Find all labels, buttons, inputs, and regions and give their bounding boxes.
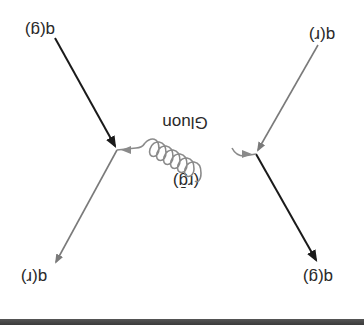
label-top-left: q(g) xyxy=(25,21,55,40)
feynman-diagram: q(g) q(r) q(r) q(g) Gluon (rḡ) xyxy=(0,0,364,325)
gluon-propagator xyxy=(117,139,256,182)
quark-line-bottom-right xyxy=(256,154,316,260)
label-gluon-name: Gluon xyxy=(162,113,207,132)
bottom-border xyxy=(0,319,364,325)
label-bottom-right: q(g) xyxy=(303,268,333,287)
quark-line-top-right xyxy=(258,45,318,150)
gluon-arrow-right xyxy=(242,150,252,158)
gluon-arrow-left xyxy=(121,146,131,154)
quark-line-bottom-left xyxy=(56,150,117,262)
label-top-right: q(r) xyxy=(309,26,335,45)
diagram-canvas: q(g) q(r) q(r) q(g) Gluon (rḡ) xyxy=(0,0,364,325)
quark-line-top-left xyxy=(55,38,115,146)
label-bottom-left: q(r) xyxy=(21,268,47,287)
